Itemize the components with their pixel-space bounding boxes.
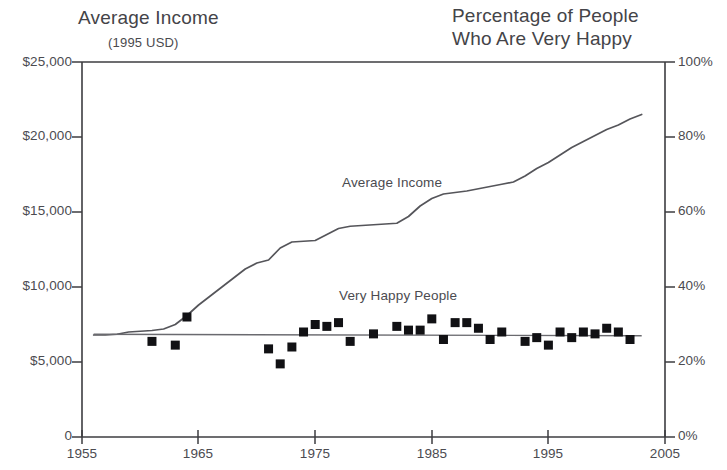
scatter-point — [439, 335, 448, 344]
scatter-point — [346, 337, 355, 346]
scatter-point — [299, 328, 308, 337]
scatter-point — [626, 335, 635, 344]
y-axis-left-ticks — [72, 62, 82, 437]
scatter-point — [264, 344, 273, 353]
scatter-point — [369, 329, 378, 338]
scatter-point — [404, 326, 413, 335]
scatter-point — [591, 329, 600, 338]
scatter-point — [567, 333, 576, 342]
average-income-line — [94, 115, 642, 336]
scatter-point — [462, 318, 471, 327]
scatter-point — [287, 343, 296, 352]
scatter-point — [532, 333, 541, 342]
scatter-point — [451, 318, 460, 327]
scatter-point — [427, 314, 436, 323]
scatter-point — [544, 341, 553, 350]
scatter-point — [497, 328, 506, 337]
scatter-point — [602, 324, 611, 333]
scatter-point — [416, 326, 425, 335]
plot-area — [0, 0, 727, 470]
chart-container: Average Income (1995 USD) Percentage of … — [0, 0, 727, 470]
scatter-point — [474, 324, 483, 333]
scatter-point — [311, 320, 320, 329]
series-group — [94, 115, 642, 369]
y-axis-right-ticks — [665, 62, 675, 437]
scatter-point — [556, 328, 565, 337]
scatter-point — [579, 328, 588, 337]
scatter-point — [392, 322, 401, 331]
very-happy-scatter-points — [147, 313, 634, 369]
scatter-point — [322, 322, 331, 331]
scatter-point — [486, 335, 495, 344]
scatter-point — [276, 359, 285, 368]
scatter-point — [521, 337, 530, 346]
scatter-point — [614, 328, 623, 337]
scatter-point — [334, 318, 343, 327]
scatter-point — [147, 337, 156, 346]
axes-group — [72, 62, 675, 444]
scatter-point — [182, 313, 191, 322]
scatter-point — [171, 341, 180, 350]
